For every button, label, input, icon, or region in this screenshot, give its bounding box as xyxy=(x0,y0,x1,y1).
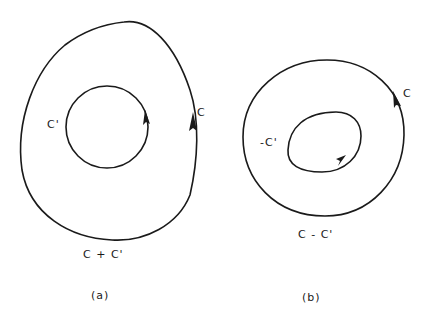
panel-b-outer-arrow-icon xyxy=(393,91,401,108)
panel-a-combined-label: C + C' xyxy=(83,249,124,260)
panel-a-inner-arrow-icon xyxy=(143,110,150,125)
panel-a-outer-label: C xyxy=(197,107,206,118)
panel-b-inner-arrow-icon xyxy=(336,155,346,166)
panel-b-inner-label: -C' xyxy=(260,137,278,148)
panel-b-caption: (b) xyxy=(302,292,321,303)
panel-b-combined-label: C - C' xyxy=(298,229,333,240)
panel-a-caption: (a) xyxy=(91,290,109,301)
panel-b-inner-contour xyxy=(288,112,361,172)
panel-a-inner-contour xyxy=(66,86,148,168)
panel-b-outer-label: C xyxy=(403,88,412,99)
contour-diagram xyxy=(0,0,425,323)
panel-a-inner-label: C' xyxy=(47,119,60,130)
